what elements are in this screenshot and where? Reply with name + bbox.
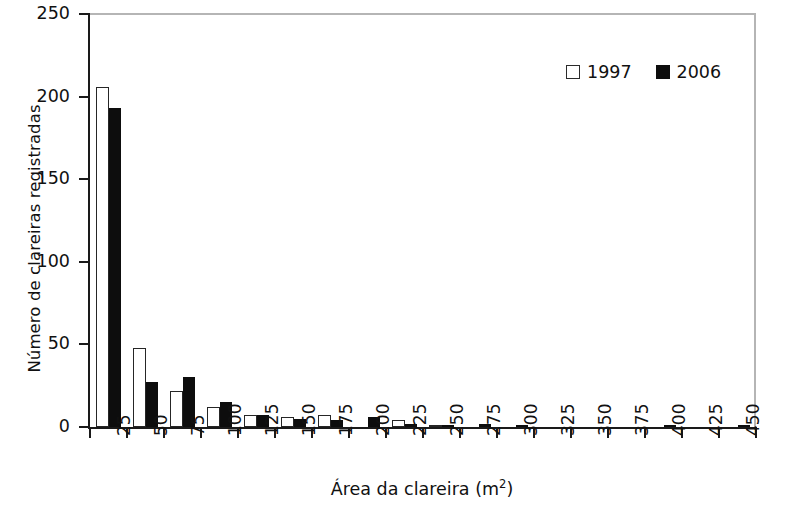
legend-label-1997: 1997 xyxy=(587,62,632,82)
x-axis-tick-label: 400 xyxy=(669,404,689,436)
bar-group xyxy=(497,14,534,427)
x-axis-tick-label: 175 xyxy=(336,404,356,436)
x-axis-title-base: Área da clareira (m xyxy=(331,479,499,499)
y-axis-tick-label: 150 xyxy=(37,168,70,188)
bar-chart-figure: Número de clareiras registradas 05010015… xyxy=(0,0,803,507)
bar-1997-25 xyxy=(96,87,109,427)
bar-1997-100 xyxy=(207,407,220,427)
bar-1997-125 xyxy=(244,415,257,427)
x-axis-tick-label: 275 xyxy=(484,404,504,436)
bar-group xyxy=(275,14,312,427)
y-axis-tick-label: 100 xyxy=(37,250,70,270)
x-axis-tick xyxy=(89,427,91,438)
open-square-swatch xyxy=(566,65,580,79)
filled-square-swatch xyxy=(656,65,670,79)
x-axis-tick-label: 250 xyxy=(447,404,467,436)
y-axis-tick-label: 50 xyxy=(48,333,70,353)
y-axis-tick: 100 xyxy=(79,261,90,263)
x-axis-tick-label: 100 xyxy=(225,404,245,436)
bar-group xyxy=(127,14,164,427)
y-axis-title: Número de clareiras registradas xyxy=(25,59,44,419)
y-axis-tick: 250 xyxy=(79,13,90,15)
bar-1997-150 xyxy=(281,417,294,427)
x-axis-tick-label: 200 xyxy=(373,404,393,436)
x-axis-tick-label: 225 xyxy=(410,404,430,436)
bar-group xyxy=(719,14,756,427)
bar-1997-175 xyxy=(318,415,331,427)
x-axis-tick-label: 300 xyxy=(521,404,541,436)
bar-group xyxy=(460,14,497,427)
bar-1997-50 xyxy=(133,348,146,427)
y-axis-tick-label: 200 xyxy=(37,85,70,105)
x-axis-tick-label: 350 xyxy=(595,404,615,436)
y-axis-tick: 200 xyxy=(79,96,90,98)
bar-2006-25 xyxy=(109,108,122,427)
bar-group xyxy=(238,14,275,427)
bar-group xyxy=(90,14,127,427)
x-axis-tick-label: 25 xyxy=(114,414,134,436)
x-axis-tick-label: 375 xyxy=(632,404,652,436)
legend-item-1997: 1997 xyxy=(566,62,632,82)
legend-label-2006: 2006 xyxy=(677,62,722,82)
bar-1997-225 xyxy=(392,420,405,427)
x-axis-tick-label: 50 xyxy=(151,414,171,436)
x-axis-tick-label: 125 xyxy=(262,404,282,436)
y-axis-tick-label: 0 xyxy=(59,416,70,436)
bar-group xyxy=(312,14,349,427)
x-axis-tick-label: 425 xyxy=(706,404,726,436)
x-axis-title-tail: ) xyxy=(506,479,513,499)
x-axis-tick-label: 450 xyxy=(743,404,763,436)
y-axis-tick: 50 xyxy=(79,343,90,345)
bar-group xyxy=(349,14,386,427)
x-axis-tick-label: 325 xyxy=(558,404,578,436)
bar-1997-250 xyxy=(429,425,442,427)
chart-legend: 1997 2006 xyxy=(566,62,721,82)
bar-group xyxy=(423,14,460,427)
x-axis-tick-label: 150 xyxy=(299,404,319,436)
bar-group xyxy=(386,14,423,427)
x-axis-tick-label: 75 xyxy=(188,414,208,436)
legend-item-2006: 2006 xyxy=(656,62,722,82)
bar-1997-75 xyxy=(170,391,183,427)
bar-group xyxy=(201,14,238,427)
x-axis-title: Área da clareira (m2) xyxy=(88,477,756,499)
bar-group xyxy=(164,14,201,427)
y-axis-tick: 150 xyxy=(79,178,90,180)
y-axis-tick-label: 250 xyxy=(37,3,70,23)
